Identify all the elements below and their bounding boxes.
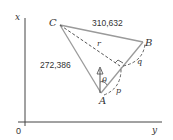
- origin-label: 0: [16, 126, 21, 136]
- edge-AB: [101, 42, 143, 93]
- label-q: q: [137, 57, 142, 66]
- label-p: p: [116, 86, 121, 95]
- survey-diagram: x y 0 C B A 310,632 272,386 r q p θ: [0, 0, 173, 140]
- edge-CA-length: 272,386: [40, 60, 71, 70]
- label-theta: θ: [102, 76, 107, 85]
- point-label-A: A: [98, 95, 106, 106]
- right-angle-marker: [115, 60, 123, 63]
- label-r: r: [97, 39, 102, 48]
- edge-CB-length: 310,632: [92, 18, 123, 28]
- edge-CA: [60, 25, 101, 93]
- point-label-C: C: [49, 17, 57, 28]
- y-axis-label: y: [151, 125, 158, 135]
- point-label-B: B: [144, 37, 152, 48]
- x-axis-label: x: [15, 12, 20, 22]
